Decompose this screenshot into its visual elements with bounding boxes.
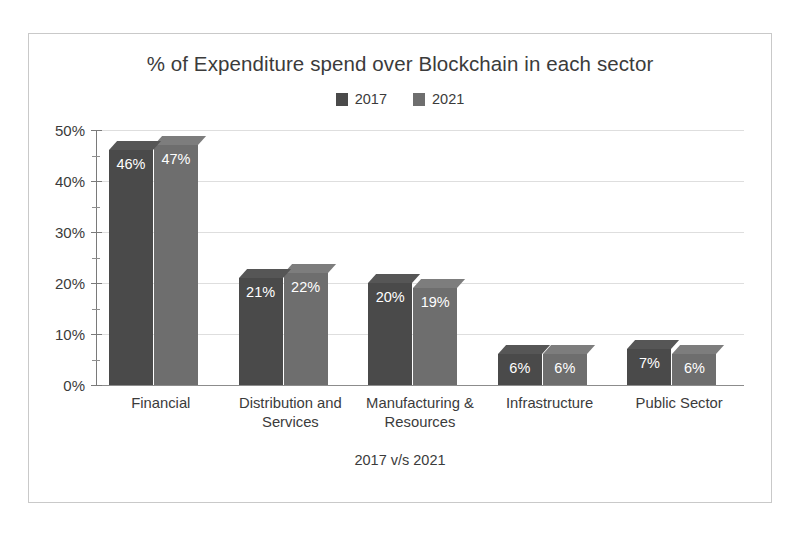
chart-title: % of Expenditure spend over Blockchain i… bbox=[29, 52, 771, 76]
y-axis-label: 30% bbox=[55, 224, 85, 241]
y-axis-label: 50% bbox=[55, 122, 85, 139]
bar-front-face bbox=[154, 145, 198, 385]
x-axis-category-label: Infrastructure bbox=[485, 394, 615, 413]
bar-front-face bbox=[543, 354, 587, 385]
chart-legend: 2017 2021 bbox=[29, 91, 771, 107]
bar-2017-3[interactable]: 6% bbox=[498, 354, 542, 385]
x-axis-category-label: Manufacturing & Resources bbox=[355, 394, 485, 432]
x-axis-category-label: Financial bbox=[96, 394, 226, 413]
legend-item-2017[interactable]: 2017 bbox=[336, 91, 387, 107]
bar-top-face bbox=[543, 345, 595, 354]
bar-group: 21%22% bbox=[239, 130, 328, 385]
bar-front-face bbox=[284, 273, 328, 385]
bar-2021-2[interactable]: 19% bbox=[413, 288, 457, 385]
zero-baseline bbox=[96, 385, 744, 386]
bar-2021-3[interactable]: 6% bbox=[543, 354, 587, 385]
bar-front-face bbox=[413, 288, 457, 385]
bar-front-face bbox=[239, 278, 283, 385]
bar-front-face bbox=[368, 283, 412, 385]
bar-top-face bbox=[627, 340, 679, 349]
bar-group: 7%6% bbox=[627, 130, 716, 385]
bar-2017-2[interactable]: 20% bbox=[368, 283, 412, 385]
bar-front-face bbox=[109, 150, 153, 385]
bar-top-face bbox=[413, 279, 465, 288]
legend-swatch-2017 bbox=[336, 93, 348, 106]
y-tick-major bbox=[91, 385, 102, 386]
chart-container: % of Expenditure spend over Blockchain i… bbox=[28, 33, 772, 503]
bar-2017-0[interactable]: 46% bbox=[109, 150, 153, 385]
bar-group: 20%19% bbox=[368, 130, 457, 385]
bar-2021-0[interactable]: 47% bbox=[154, 145, 198, 385]
bar-group: 6%6% bbox=[498, 130, 587, 385]
legend-label-2021: 2021 bbox=[432, 91, 464, 107]
bar-top-face bbox=[154, 136, 206, 145]
bar-group: 46%47% bbox=[109, 130, 198, 385]
bar-front-face bbox=[627, 349, 671, 385]
x-axis-category-label: Distribution and Services bbox=[226, 394, 356, 432]
bar-top-face bbox=[368, 274, 420, 283]
bar-2017-4[interactable]: 7% bbox=[627, 349, 671, 385]
bar-front-face bbox=[672, 354, 716, 385]
bar-front-face bbox=[498, 354, 542, 385]
y-axis-label: 20% bbox=[55, 275, 85, 292]
x-axis-title: 2017 v/s 2021 bbox=[29, 452, 771, 468]
bar-top-face bbox=[239, 269, 291, 278]
y-axis-label: 40% bbox=[55, 173, 85, 190]
bar-2017-1[interactable]: 21% bbox=[239, 278, 283, 385]
x-axis-categories: FinancialDistribution and ServicesManufa… bbox=[96, 394, 744, 440]
legend-label-2017: 2017 bbox=[355, 91, 387, 107]
bar-top-face bbox=[109, 141, 161, 150]
bar-top-face bbox=[672, 345, 724, 354]
x-axis-category-label: Public Sector bbox=[614, 394, 744, 413]
bar-2021-1[interactable]: 22% bbox=[284, 273, 328, 385]
y-axis-label: 10% bbox=[55, 326, 85, 343]
legend-swatch-2021 bbox=[413, 93, 425, 106]
bar-top-face bbox=[498, 345, 550, 354]
bar-2021-4[interactable]: 6% bbox=[672, 354, 716, 385]
y-axis-label: 0% bbox=[63, 377, 85, 394]
legend-item-2021[interactable]: 2021 bbox=[413, 91, 464, 107]
bars-layer: 46%47%21%22%20%19%6%6%7%6% bbox=[96, 130, 744, 385]
plot-area: 0%10%20%30%40%50% 46%47%21%22%20%19%6%6%… bbox=[96, 130, 744, 385]
